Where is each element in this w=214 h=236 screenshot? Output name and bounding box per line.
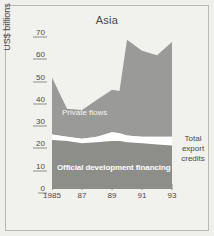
series-label-official-development-financing: Official development financing xyxy=(57,163,170,172)
y-tick-label: 60 xyxy=(33,50,47,60)
y-tick-40: 40 xyxy=(33,94,47,105)
x-tick-mark xyxy=(82,184,83,190)
y-axis-label: US$ billions xyxy=(2,0,12,72)
series-label-private-flows: Private flows xyxy=(62,108,107,117)
chart-figure: Asia US$ billions 010203040506070 198587… xyxy=(0,0,214,236)
x-tick-label: 93 xyxy=(168,191,177,200)
y-tick-label: 20 xyxy=(33,139,47,149)
x-tick-1991: 91 xyxy=(138,191,147,200)
y-tick-label: 40 xyxy=(33,94,47,104)
x-tick-mark xyxy=(142,184,143,190)
y-tick-label: 10 xyxy=(33,161,47,171)
y-tick-50: 50 xyxy=(33,72,47,83)
x-tick-mark xyxy=(52,184,53,190)
area-private-flows xyxy=(52,40,172,139)
export-credits-line-3: credits xyxy=(176,154,210,164)
export-credits-line-1: Total xyxy=(176,134,210,144)
chart-title: Asia xyxy=(0,14,214,26)
x-tick-label: 1985 xyxy=(43,191,61,200)
y-tick-label: 30 xyxy=(33,117,47,127)
x-tick-1989: 89 xyxy=(108,191,117,200)
x-tick-mark xyxy=(112,184,113,190)
x-tick-label: 91 xyxy=(138,191,147,200)
y-tick-label: 50 xyxy=(33,72,47,82)
y-tick-70: 70 xyxy=(33,28,47,39)
y-tick-20: 20 xyxy=(33,139,47,150)
y-tick-60: 60 xyxy=(33,50,47,61)
x-tick-label: 89 xyxy=(108,191,117,200)
y-tick-label: 70 xyxy=(33,28,47,38)
x-tick-1985: 1985 xyxy=(43,191,61,200)
x-tick-label: 87 xyxy=(78,191,87,200)
y-tick-30: 30 xyxy=(33,117,47,128)
y-tick-10: 10 xyxy=(33,161,47,172)
x-tick-mark xyxy=(172,184,173,190)
export-credits-line-2: export xyxy=(176,144,210,154)
x-tick-1987: 87 xyxy=(78,191,87,200)
x-tick-1993: 93 xyxy=(168,191,177,200)
series-label-total-export-credits: Total export credits xyxy=(176,134,210,164)
